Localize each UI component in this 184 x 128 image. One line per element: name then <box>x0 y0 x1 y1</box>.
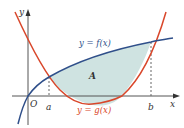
y-axis-label: y <box>18 7 25 17</box>
curve-g-label: y = g(x) <box>76 105 111 115</box>
point-b-label: b <box>148 102 154 112</box>
region-a-label: A <box>88 71 96 81</box>
point-a-label: a <box>46 102 51 112</box>
curve-f-label: y = f(x) <box>78 38 111 48</box>
origin-label: O <box>30 99 38 109</box>
x-axis-label: x <box>170 99 175 109</box>
x-axis-arrow-icon <box>173 94 180 99</box>
y-axis-arrow-icon <box>26 9 31 16</box>
diagram-canvas: y x O a b y = f(x) y = g(x) A <box>0 0 184 128</box>
area-between-curves-diagram: y x O a b y = f(x) y = g(x) A <box>0 0 184 128</box>
